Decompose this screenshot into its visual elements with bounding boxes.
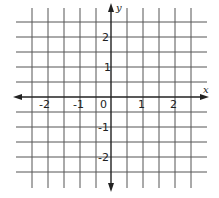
x-tick-label: 0: [100, 98, 107, 111]
x-tick-label: 2: [170, 98, 177, 111]
y-axis-label: y: [115, 2, 122, 13]
coordinate-plane: y x -2 -1 0 1 2 2 1 -1 -2: [0, 0, 219, 198]
x-axis-label: x: [203, 84, 209, 95]
y-axis-up-arrow-icon: [108, 3, 114, 12]
y-axis-down-arrow-icon: [108, 183, 114, 192]
x-axis-left-arrow-icon: [13, 94, 22, 100]
y-tick-label: -2: [98, 151, 109, 164]
y-tick-label: 1: [104, 61, 111, 74]
y-tick-label: -1: [98, 121, 109, 134]
x-tick-label: -2: [39, 98, 50, 111]
x-tick-label: -1: [73, 98, 84, 111]
y-tick-label: 2: [102, 31, 109, 44]
x-tick-label: 1: [138, 98, 145, 111]
